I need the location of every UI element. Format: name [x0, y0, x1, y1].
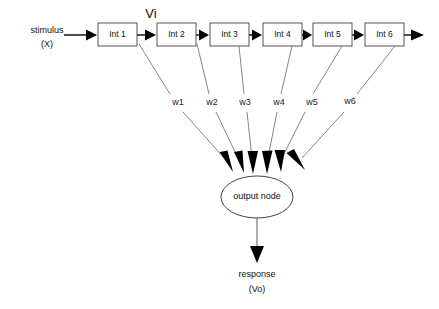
- weight-arrowhead-2: [234, 151, 244, 174]
- node-label-int-6: Int 6: [376, 29, 393, 39]
- weight-line-1-upper: [139, 44, 170, 94]
- connector-arrowhead-4-5: [303, 30, 312, 41]
- output-tail-arrowhead: [411, 30, 424, 41]
- response-label-line2: (Vo): [249, 284, 266, 294]
- network-diagram: stimulus (X) Vi Int 1 Int 2 Int 3 Int 4 …: [0, 0, 439, 309]
- weight-arrowhead-3: [248, 151, 259, 174]
- response-arrowhead: [250, 246, 264, 263]
- weight-line-5-upper: [313, 46, 342, 94]
- stimulus-label-line2: (X): [41, 39, 53, 49]
- weight-label-w3: w3: [238, 97, 251, 107]
- connector-arrowhead-2-3: [199, 30, 209, 41]
- vi-label: Vi: [145, 6, 156, 21]
- connector-arrowhead-5-6: [354, 30, 364, 41]
- weight-line-3-upper: [239, 46, 244, 94]
- diagram-canvas: stimulus (X) Vi Int 1 Int 2 Int 3 Int 4 …: [0, 0, 439, 309]
- weight-arrowhead-6: [287, 149, 306, 170]
- weight-label-w4: w4: [272, 97, 285, 107]
- weight-label-w2: w2: [205, 97, 218, 107]
- node-label-int-1: Int 1: [109, 29, 126, 39]
- weight-label-w6: w6: [343, 96, 356, 106]
- weight-line-6-lower: [302, 112, 344, 158]
- weight-line-4-upper: [281, 46, 292, 94]
- weight-labels: w1 w2 w3 w4 w5 w6: [171, 96, 356, 107]
- weight-arrowhead-1: [220, 151, 234, 173]
- node-label-int-5: Int 5: [324, 29, 341, 39]
- stimulus-label-line1: stimulus: [30, 25, 64, 35]
- connector-arrowhead-1-2: [145, 30, 156, 41]
- weight-line-1-lower: [183, 112, 224, 158]
- weight-connections: [139, 44, 395, 174]
- connector-arrowhead-3-4: [252, 30, 262, 41]
- weight-label-w1: w1: [171, 97, 184, 107]
- weight-arrowhead-5: [275, 150, 286, 172]
- node-label-int-3: Int 3: [221, 29, 238, 39]
- weight-line-2-upper: [197, 44, 209, 94]
- output-node-label: output node: [233, 191, 281, 201]
- weight-arrowhead-4: [262, 151, 273, 175]
- stimulus-arrowhead: [86, 30, 97, 41]
- weight-label-w5: w5: [305, 97, 318, 107]
- node-label-int-4: Int 4: [274, 29, 291, 39]
- response-label-line1: response: [238, 269, 275, 279]
- node-label-int-2: Int 2: [168, 29, 185, 39]
- weight-line-6-upper: [357, 46, 395, 94]
